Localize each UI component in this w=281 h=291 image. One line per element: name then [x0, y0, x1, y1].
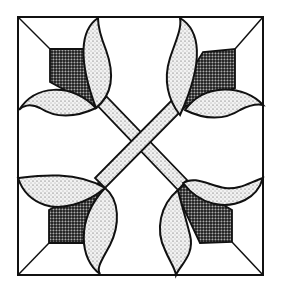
quilt-block-illustration	[0, 0, 281, 291]
